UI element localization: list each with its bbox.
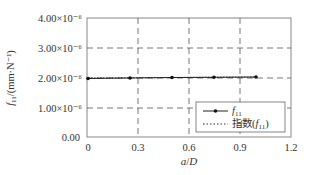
y-tick: 2.00×10⁻⁶: [38, 73, 82, 84]
x-tick: 0.6: [182, 142, 195, 153]
data-point: [128, 76, 132, 80]
data-point: [212, 76, 216, 80]
y-axis-label: f11/(mm·N⁻¹): [5, 50, 18, 106]
legend-marker-icon: [214, 109, 218, 113]
y-tick: 0.00: [62, 132, 80, 143]
x-tick: 0.3: [131, 142, 144, 153]
data-point: [170, 76, 174, 80]
data-point: [86, 77, 90, 81]
chart-canvas: 4.00×10⁻⁶ 3.00×10⁻⁶ 2.00×10⁻⁶ 1.00×10⁻⁶ …: [0, 0, 317, 175]
legend: f11 指数(f11): [196, 102, 285, 132]
y-tick-labels: 4.00×10⁻⁶ 3.00×10⁻⁶ 2.00×10⁻⁶ 1.00×10⁻⁶ …: [38, 13, 82, 143]
y-tick: 4.00×10⁻⁶: [38, 13, 82, 24]
x-axis-label: a/D: [181, 155, 198, 167]
y-tick: 1.00×10⁻⁶: [38, 103, 82, 114]
chart: 4.00×10⁻⁶ 3.00×10⁻⁶ 2.00×10⁻⁶ 1.00×10⁻⁶ …: [0, 0, 317, 175]
data-point: [254, 75, 258, 79]
x-tick: 0.9: [233, 142, 246, 153]
y-tick: 3.00×10⁻⁶: [38, 43, 82, 54]
x-tick-labels: 0 0.3 0.6 0.9 1.2: [85, 142, 297, 153]
x-tick: 0: [85, 142, 90, 153]
x-tick: 1.2: [284, 142, 297, 153]
